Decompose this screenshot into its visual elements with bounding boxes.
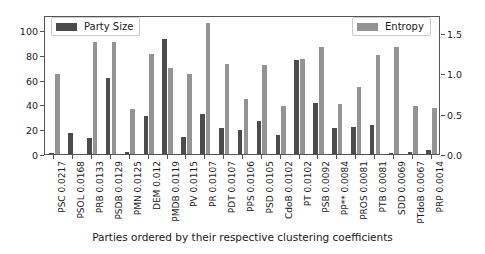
- y-tick-label-left: 0: [0, 150, 38, 161]
- bar-group: [309, 17, 328, 154]
- bar-party-size: [144, 116, 149, 154]
- legend-entropy: Entropy: [352, 17, 431, 36]
- bar-entropy: [168, 68, 173, 154]
- bar-group: [139, 17, 158, 154]
- bar-group: [215, 17, 234, 154]
- bar-party-size: [87, 138, 92, 154]
- x-tick-label: PSB 0.0092: [321, 161, 331, 213]
- plot-area: [44, 16, 440, 155]
- x-tick-mark: [431, 155, 432, 159]
- bar-entropy: [394, 47, 399, 154]
- x-tick-mark: [374, 155, 375, 159]
- bar-party-size: [125, 152, 130, 154]
- x-tick-label: PTdoB 0.0067: [416, 161, 426, 224]
- bar-group: [234, 17, 253, 154]
- bar-entropy: [206, 23, 211, 154]
- bar-entropy: [225, 64, 230, 155]
- x-tick-mark: [91, 155, 92, 159]
- legend-swatch-entropy: [357, 23, 378, 31]
- x-tick-mark: [53, 155, 54, 159]
- bar-group: [177, 17, 196, 154]
- bar-entropy: [149, 54, 154, 154]
- bar-entropy: [357, 87, 362, 154]
- x-tick-mark: [129, 155, 130, 159]
- bar-group: [384, 17, 403, 154]
- y-tick-label-left: 60: [0, 75, 38, 86]
- x-tick-label: PT 0.0102: [303, 161, 313, 206]
- y-tick-label-right: 0.5: [447, 109, 485, 120]
- bars-layer: [45, 17, 439, 154]
- y-tick-mark-right: [441, 155, 445, 156]
- bar-group: [422, 17, 441, 154]
- x-tick-label: DEM 0.012: [152, 161, 162, 210]
- bar-party-size: [49, 153, 54, 154]
- bar-party-size: [106, 78, 111, 154]
- x-tick-label: PR 0.0107: [208, 161, 218, 207]
- bar-party-size: [276, 135, 281, 154]
- y-tick-mark-left: [40, 155, 44, 156]
- bar-group: [45, 17, 64, 154]
- y-tick-mark-left: [40, 56, 44, 57]
- y-tick-mark-left: [40, 31, 44, 32]
- bar-entropy: [300, 59, 305, 154]
- x-tick-label: SDD 0.0069: [397, 161, 407, 215]
- bar-party-size: [257, 121, 262, 155]
- x-tick-mark: [242, 155, 243, 159]
- y-tick-mark-right: [441, 74, 445, 75]
- x-tick-mark: [223, 155, 224, 159]
- bar-party-size: [294, 60, 299, 154]
- x-axis-title: Parties ordered by their respective clus…: [0, 231, 485, 243]
- x-tick-mark: [299, 155, 300, 159]
- bar-entropy: [93, 42, 98, 154]
- bar-group: [102, 17, 121, 154]
- y-tick-mark-left: [40, 105, 44, 106]
- bar-group: [120, 17, 139, 154]
- x-tick-mark: [148, 155, 149, 159]
- bar-entropy: [319, 47, 324, 154]
- legend-label-entropy: Entropy: [385, 21, 424, 32]
- y-tick-label-right: 1.5: [447, 28, 485, 39]
- legend-party-size: Party Size: [51, 17, 140, 36]
- x-tick-mark: [261, 155, 262, 159]
- x-tick-label: PMDB 0.0119: [171, 161, 181, 222]
- x-tick-mark: [412, 155, 413, 159]
- bar-entropy: [376, 55, 381, 154]
- bar-group: [366, 17, 385, 154]
- x-tick-label: PROS 0.0081: [359, 161, 369, 220]
- x-tick-mark: [317, 155, 318, 159]
- bar-party-size: [351, 127, 356, 154]
- bar-party-size: [313, 103, 318, 154]
- x-tick-label: PSC 0.0217: [57, 161, 67, 213]
- y-tick-label-right: 1.0: [447, 69, 485, 80]
- bar-party-size: [332, 128, 337, 154]
- y-tick-label-left: 40: [0, 100, 38, 111]
- x-tick-mark: [336, 155, 337, 159]
- x-tick-label: PSOL 0.0168: [76, 161, 86, 219]
- bar-entropy: [262, 65, 267, 154]
- bar-group: [83, 17, 102, 154]
- bar-entropy: [187, 74, 192, 154]
- x-tick-label: PP** 0.0084: [340, 161, 350, 215]
- bar-entropy: [281, 106, 286, 154]
- bar-entropy: [338, 104, 343, 154]
- bar-party-size: [68, 133, 73, 154]
- y-tick-mark-right: [441, 115, 445, 116]
- y-tick-mark-left: [40, 81, 44, 82]
- legend-label-party-size: Party Size: [84, 21, 133, 32]
- x-tick-label: PSD 0.0105: [265, 161, 275, 213]
- bar-group: [64, 17, 83, 154]
- legend-swatch-party-size: [56, 23, 77, 31]
- x-tick-mark: [110, 155, 111, 159]
- bar-group: [403, 17, 422, 154]
- x-tick-label: PDT 0.0107: [227, 161, 237, 213]
- bar-entropy: [244, 99, 249, 154]
- bar-entropy: [413, 106, 418, 154]
- x-tick-mark: [280, 155, 281, 159]
- bar-party-size: [370, 125, 375, 154]
- y-tick-mark-left: [40, 130, 44, 131]
- bar-group: [290, 17, 309, 154]
- y-tick-mark-right: [441, 34, 445, 35]
- bar-entropy: [55, 74, 60, 154]
- bar-group: [252, 17, 271, 154]
- bar-entropy: [130, 109, 135, 154]
